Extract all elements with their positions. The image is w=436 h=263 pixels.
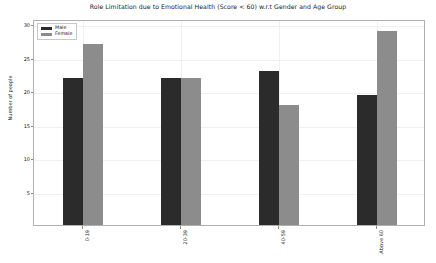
chart-legend: MaleFemale: [37, 23, 77, 40]
bar-male-above-60: [357, 95, 377, 225]
legend-swatch-male: [41, 27, 52, 31]
chart-title: Role Limitation due to Emotional Health …: [0, 3, 436, 10]
y-tick-label: 30: [24, 22, 30, 28]
bar-chart-figure: Role Limitation due to Emotional Health …: [0, 0, 436, 263]
plot-area: [33, 20, 425, 226]
x-tick-mark: [278, 226, 279, 229]
bar-female-40-59: [279, 105, 299, 225]
bar-male-0-19: [63, 78, 83, 225]
legend-item-female: Female: [41, 32, 72, 37]
x-tick-label-20-39: 20-39: [182, 230, 188, 245]
x-tick-label-above-60: Above 60: [378, 230, 384, 254]
bar-female-0-19: [83, 44, 103, 225]
legend-label-male: Male: [55, 26, 66, 31]
y-tick-label: 10: [24, 156, 30, 162]
y-tick-label: 15: [24, 123, 30, 129]
x-tick-mark: [82, 226, 83, 229]
legend-label-female: Female: [55, 32, 72, 37]
bar-male-40-59: [259, 71, 279, 225]
gridline-horizontal: [34, 26, 424, 27]
x-tick-mark: [180, 226, 181, 229]
legend-swatch-female: [41, 33, 52, 37]
y-tick-label: 20: [24, 89, 30, 95]
bar-male-20-39: [161, 78, 181, 225]
y-axis-label: Number of people: [7, 68, 13, 128]
x-tick-label-40-59: 40-59: [280, 230, 286, 245]
bar-female-above-60: [377, 31, 397, 225]
y-axis-tick-labels: 51015202530: [18, 20, 30, 226]
x-tick-mark: [376, 226, 377, 229]
y-tick-label: 25: [24, 56, 30, 62]
bar-female-20-39: [181, 78, 201, 225]
x-tick-label-0-19: 0-19: [84, 230, 90, 241]
legend-item-male: Male: [41, 26, 72, 31]
x-axis-tick-labels: 0-1920-3940-59Above 60: [33, 226, 425, 263]
